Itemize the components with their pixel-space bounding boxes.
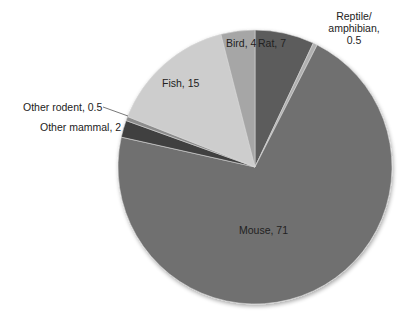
label-reptile-line3: 0.5 — [314, 34, 394, 46]
label-fish: Fish, 15 — [162, 77, 199, 89]
label-reptile-amphibian: Reptile/ amphibian, 0.5 — [314, 10, 394, 46]
label-other-rodent: Other rodent, 0.5 — [23, 101, 102, 113]
other-rodent-leader-line — [103, 107, 128, 116]
label-reptile-line2: amphibian, — [314, 22, 394, 34]
pie-chart — [0, 0, 405, 321]
label-mouse: Mouse, 71 — [239, 224, 288, 236]
label-other-mammal: Other mammal, 2 — [40, 121, 121, 133]
label-reptile-line1: Reptile/ — [314, 10, 394, 22]
label-rat: Rat, 7 — [258, 37, 286, 49]
pie-slices — [118, 30, 392, 304]
label-bird: Bird, 4 — [226, 37, 256, 49]
